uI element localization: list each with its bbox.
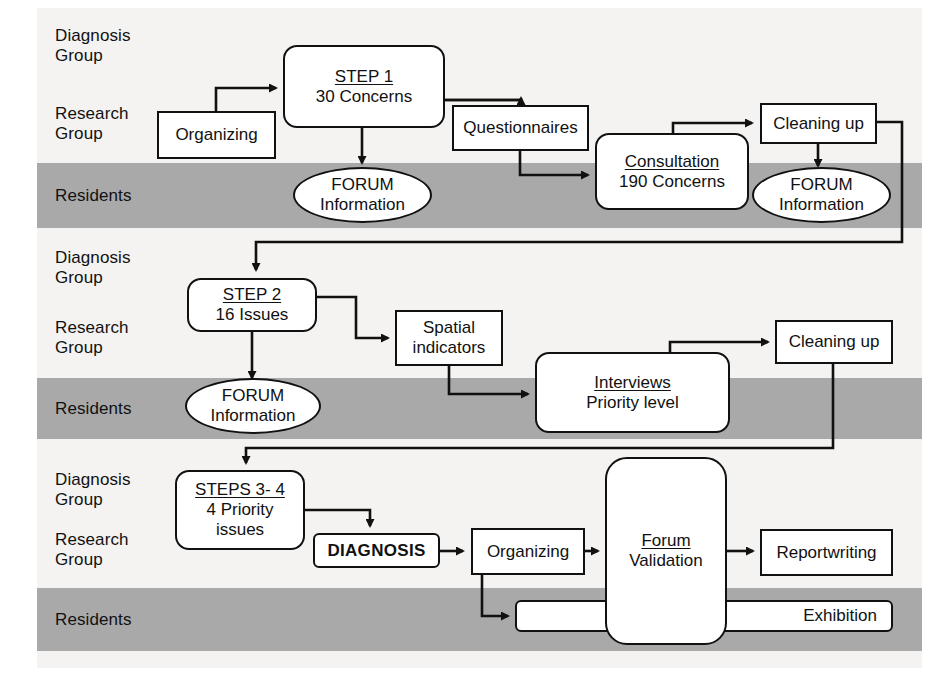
node-forum-2-subtitle: Information — [779, 195, 864, 215]
node-steps-3-4-line2: 4 Priority — [206, 500, 273, 520]
node-step-2-title: STEP 2 — [223, 285, 281, 305]
node-step-1[interactable]: STEP 1 30 Concerns — [283, 45, 445, 128]
node-consultation-subtitle: 190 Concerns — [619, 172, 725, 192]
node-spatial-indicators-line1: Spatial — [423, 318, 475, 338]
node-organizing-1-label: Organizing — [175, 125, 257, 145]
node-spatial-indicators[interactable]: Spatial indicators — [395, 310, 503, 366]
node-exhibition-label: Exhibition — [803, 606, 877, 626]
node-cleaning-up-2[interactable]: Cleaning up — [775, 320, 893, 364]
node-step-2[interactable]: STEP 2 16 Issues — [187, 278, 317, 332]
node-reportwriting-label: Reportwriting — [776, 543, 876, 563]
node-forum-information-1[interactable]: FORUM Information — [293, 167, 432, 223]
lane-label-residents-3: Residents — [55, 610, 132, 630]
node-spatial-indicators-line2: indicators — [413, 338, 486, 358]
lane-label-research-group-1: Research Group — [55, 104, 129, 144]
node-interviews[interactable]: Interviews Priority level — [535, 352, 730, 433]
node-step-1-subtitle: 30 Concerns — [316, 87, 412, 107]
node-questionnaires-label: Questionnaires — [463, 118, 577, 138]
flowchart-diagram: Diagnosis Group Research Group Residents… — [0, 0, 936, 679]
lane-band-residents-2 — [37, 378, 922, 439]
node-forum-validation-title: Forum — [641, 531, 690, 551]
node-consultation-title: Consultation — [625, 152, 720, 172]
node-organizing-1[interactable]: Organizing — [157, 111, 276, 159]
lane-label-residents-1: Residents — [55, 186, 132, 206]
lane-label-diagnosis-group-1: Diagnosis Group — [55, 26, 131, 66]
node-cleaning-up-1-label: Cleaning up — [773, 114, 864, 134]
node-forum-validation[interactable]: Forum Validation — [605, 457, 727, 645]
node-consultation[interactable]: Consultation 190 Concerns — [595, 133, 749, 210]
node-step-1-title: STEP 1 — [335, 67, 393, 87]
node-organizing-2-label: Organizing — [487, 542, 569, 562]
node-step-2-subtitle: 16 Issues — [216, 305, 289, 325]
node-forum-1-title: FORUM — [331, 175, 393, 195]
lane-label-research-group-3: Research Group — [55, 530, 129, 570]
node-forum-information-3[interactable]: FORUM Information — [185, 378, 321, 434]
node-steps-3-4[interactable]: STEPS 3- 4 4 Priority issues — [175, 470, 305, 550]
lane-label-diagnosis-group-3: Diagnosis Group — [55, 470, 131, 510]
lane-label-residents-2: Residents — [55, 399, 132, 419]
node-interviews-subtitle: Priority level — [586, 393, 679, 413]
node-steps-3-4-title: STEPS 3- 4 — [195, 480, 285, 500]
node-cleaning-up-1[interactable]: Cleaning up — [760, 103, 877, 144]
node-forum-1-subtitle: Information — [320, 195, 405, 215]
lane-label-research-group-2: Research Group — [55, 318, 129, 358]
node-forum-3-subtitle: Information — [210, 406, 295, 426]
node-reportwriting[interactable]: Reportwriting — [760, 529, 893, 576]
node-questionnaires[interactable]: Questionnaires — [452, 105, 589, 151]
node-forum-information-2[interactable]: FORUM Information — [752, 167, 891, 223]
node-forum-3-title: FORUM — [222, 386, 284, 406]
lane-label-diagnosis-group-2: Diagnosis Group — [55, 248, 131, 288]
node-interviews-title: Interviews — [594, 373, 671, 393]
node-diagnosis[interactable]: DIAGNOSIS — [313, 533, 440, 568]
node-organizing-2[interactable]: Organizing — [471, 528, 585, 575]
node-cleaning-up-2-label: Cleaning up — [789, 332, 880, 352]
node-forum-2-title: FORUM — [790, 175, 852, 195]
node-steps-3-4-line3: issues — [216, 520, 264, 540]
node-forum-validation-subtitle: Validation — [629, 551, 702, 571]
node-diagnosis-label: DIAGNOSIS — [327, 541, 425, 561]
